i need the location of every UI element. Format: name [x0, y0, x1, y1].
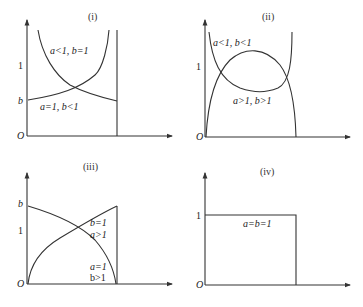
panel-ii: (ii) O 1 a<1, b<1 a>1, b>1 [196, 11, 350, 142]
y-tick-b: b [18, 95, 23, 106]
curve-label-upper: a<1, b<1 [213, 37, 252, 48]
panel-i-title: (i) [88, 11, 97, 23]
curve-label-lower: a=1, b<1 [40, 101, 79, 112]
origin-label: O [17, 130, 24, 141]
origin-label: O [17, 278, 24, 289]
panel-iii-title: (iii) [83, 161, 98, 173]
curve-label-upper-line2: a>1 [90, 229, 107, 240]
beta-distribution-figure: (i) O 1 b a<1, b=1 a=1, b<1 (ii) O 1 a<1… [0, 0, 363, 307]
panel-iv-title: (iv) [260, 166, 274, 178]
panel-i: (i) O 1 b a<1, b=1 a=1, b<1 [17, 11, 172, 141]
y-tick-1: 1 [18, 60, 23, 71]
curve-label-upper: a<1, b=1 [50, 45, 89, 56]
curve-label-upper-line1: b=1 [90, 217, 107, 228]
curve-label: a=b=1 [243, 218, 272, 229]
curve-label-lower: a>1, b>1 [233, 95, 272, 106]
origin-label: O [196, 131, 203, 142]
origin-label: O [196, 279, 203, 290]
panel-iv: (iv) O 1 a=b=1 [196, 166, 350, 290]
y-tick-1: 1 [196, 61, 201, 72]
y-tick-b: b [18, 198, 23, 209]
curve-a-eq1-b-lt1 [38, 30, 117, 101]
curve-label-lower-line2: b>1 [90, 272, 106, 283]
curve-a-gt1-b-gt1 [206, 51, 296, 137]
y-tick-1: 1 [196, 210, 201, 221]
y-tick-1: 1 [18, 225, 23, 236]
curve-label-lower-line1: a=1 [90, 261, 107, 272]
panel-iii: (iii) O 1 b b=1 a>1 a=1 b>1 [17, 161, 172, 289]
panel-ii-title: (ii) [262, 11, 274, 23]
